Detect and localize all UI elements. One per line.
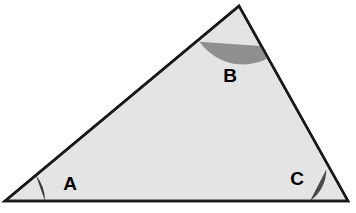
vertex-label-c: C: [290, 169, 304, 188]
triangle-diagram: A B C: [0, 0, 356, 213]
vertex-label-b: B: [223, 66, 237, 85]
vertex-label-a: A: [63, 174, 77, 193]
